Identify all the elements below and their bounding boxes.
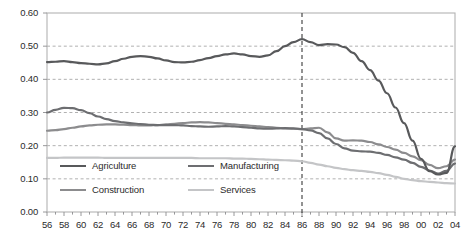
legend-swatch-icon (60, 189, 86, 191)
legend-item-manufacturing: Manufacturing (188, 160, 279, 171)
legend-label: Manufacturing (220, 160, 279, 171)
legend-item-agriculture: Agriculture (60, 160, 136, 171)
legend-label: Agriculture (92, 160, 136, 171)
legend-item-construction: Construction (60, 184, 144, 195)
legend-swatch-icon (60, 165, 86, 167)
legend-label: Services (220, 184, 256, 195)
y-tick-label: 0.40 (4, 73, 38, 84)
line-chart: 0.000.100.200.300.400.500.60 56586062646… (0, 0, 472, 243)
series-line-agriculture (47, 39, 455, 174)
x-tick-label: 04 (445, 219, 465, 230)
chart-plot-area (0, 0, 472, 243)
legend-swatch-icon (188, 165, 214, 167)
y-tick-label: 0.30 (4, 107, 38, 118)
legend-label: Construction (92, 184, 144, 195)
chart-legend: AgricultureManufacturingConstructionServ… (60, 160, 310, 206)
legend-swatch-icon (188, 189, 214, 191)
y-tick-label: 0.00 (4, 206, 38, 217)
y-tick-label: 0.10 (4, 173, 38, 184)
y-tick-label: 0.60 (4, 7, 38, 18)
y-tick-label: 0.20 (4, 140, 38, 151)
y-tick-label: 0.50 (4, 40, 38, 51)
legend-item-services: Services (188, 184, 256, 195)
